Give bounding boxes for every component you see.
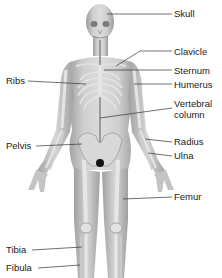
leader-fibula <box>38 265 80 268</box>
label-clavicle: Clavicle <box>174 47 207 57</box>
eye-socket-left <box>103 21 110 27</box>
label-vertebral: Vertebral <box>174 99 212 109</box>
knee-right <box>80 223 92 233</box>
label-pelvis: Pelvis <box>6 141 31 151</box>
label-humerus: Humerus <box>174 80 213 90</box>
eye-socket-right <box>91 21 98 27</box>
skeleton-overlay <box>46 21 156 278</box>
knee-left <box>110 223 122 233</box>
label-sternum: Sternum <box>174 66 210 76</box>
pelvic-opening <box>96 159 104 167</box>
right-hand <box>28 170 48 192</box>
femur-right <box>84 160 86 226</box>
label-column: column <box>174 110 205 120</box>
label-fibula: Fibula <box>6 263 32 273</box>
label-skull: Skull <box>174 9 195 19</box>
leader-tibia <box>32 247 82 250</box>
label-femur: Femur <box>174 192 201 202</box>
label-ulna: Ulna <box>174 151 194 161</box>
label-tibia: Tibia <box>6 245 26 255</box>
label-radius: Radius <box>174 137 204 147</box>
leader-femur <box>123 197 172 199</box>
label-ribs: Ribs <box>6 76 25 86</box>
femur-left <box>116 160 118 226</box>
left-hand <box>154 170 174 192</box>
